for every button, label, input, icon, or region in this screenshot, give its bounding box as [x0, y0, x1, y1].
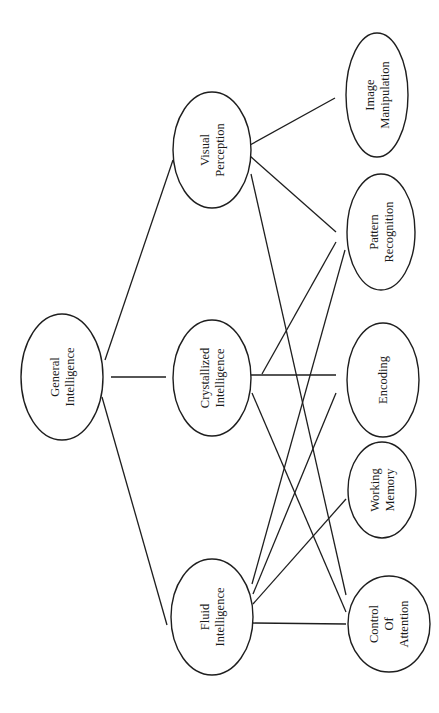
- node-label-line: Pattern: [367, 214, 381, 250]
- node-label-line: Of: [382, 617, 396, 631]
- edge-general-to-fluid: [102, 397, 167, 625]
- node-label-line: General: [48, 357, 62, 397]
- node-label-line: Perception: [213, 123, 227, 177]
- node-label-line: Image: [363, 79, 377, 111]
- node-label-line: Intelligence: [213, 587, 227, 646]
- intelligence-hierarchy-diagram: GeneralIntelligenceVisualPerceptionCryst…: [0, 0, 439, 713]
- node-fluid: FluidIntelligence: [171, 559, 253, 675]
- node-encoding: Encoding: [347, 323, 419, 437]
- edge-crystallized-to-control: [252, 393, 346, 612]
- node-control: ControlOfAttention: [348, 576, 430, 672]
- node-label-line: Recognition: [382, 201, 396, 263]
- edge-fluid-to-control: [253, 623, 346, 624]
- edge-crystallized-to-pattern: [262, 242, 336, 374]
- node-pattern: PatternRecognition: [347, 174, 415, 290]
- node-image: ImageManipulation: [346, 33, 408, 157]
- edge-general-to-visual: [105, 160, 173, 360]
- node-label-line: Encoding: [376, 355, 390, 404]
- node-label-line: Fluid: [198, 603, 212, 630]
- node-layer: GeneralIntelligenceVisualPerceptionCryst…: [21, 33, 430, 675]
- edge-fluid-to-working: [253, 499, 346, 604]
- edge-visual-to-pattern: [250, 156, 336, 232]
- node-working: WorkingMemory: [348, 442, 416, 538]
- node-label-line: Visual: [198, 134, 212, 166]
- node-label-line: Working: [368, 468, 382, 512]
- node-crystallized: CrystallizedIntelligence: [173, 320, 251, 436]
- node-label-line: Intelligence: [63, 347, 77, 406]
- node-visual: VisualPerception: [173, 92, 251, 208]
- edge-fluid-to-pattern: [252, 250, 345, 584]
- node-label-line: Attention: [397, 600, 411, 648]
- node-label-line: Manipulation: [378, 61, 392, 129]
- node-label-line: Control: [367, 604, 381, 643]
- node-label-line: Memory: [383, 468, 397, 512]
- node-general: GeneralIntelligence: [21, 314, 103, 440]
- edge-visual-to-image: [250, 98, 335, 145]
- node-label-line: Crystallized: [198, 347, 212, 408]
- edge-visual-to-control: [251, 174, 346, 595]
- node-label-line: Intelligence: [213, 348, 227, 407]
